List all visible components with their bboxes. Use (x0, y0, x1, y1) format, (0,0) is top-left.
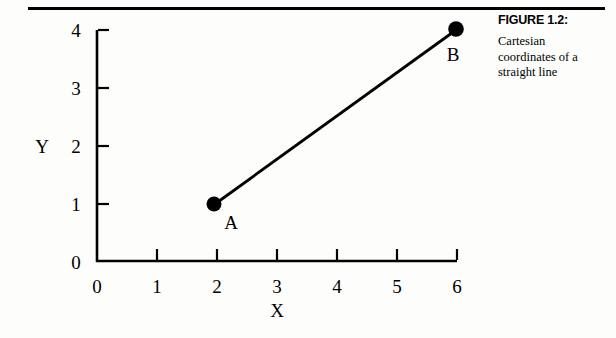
x-tick-label-6: 6 (445, 277, 469, 296)
figure-caption-title: FIGURE 1.2: (498, 13, 604, 28)
x-tick-label-3: 3 (265, 277, 289, 296)
x-tick-label-2: 2 (205, 277, 229, 296)
x-tick-label-0: 0 (85, 277, 109, 296)
figure-caption: FIGURE 1.2: Cartesian coordinates of a s… (498, 13, 604, 81)
point-label-b: B (443, 45, 463, 64)
data-point-b (448, 21, 464, 37)
y-tick-label-3: 3 (64, 79, 88, 98)
data-point-a (207, 197, 222, 212)
figure-caption-body: Cartesian coordinates of a straight line (498, 34, 604, 81)
figure-page: 4 3 2 1 0 0 1 2 3 4 5 6 Y X A B FIGURE 1… (0, 0, 616, 338)
x-tick-label-1: 1 (145, 277, 169, 296)
point-label-a: A (221, 213, 241, 232)
x-axis-label: X (265, 301, 289, 320)
x-tick-label-5: 5 (385, 277, 409, 296)
x-tick-label-4: 4 (325, 277, 349, 296)
y-tick-label-2: 2 (64, 137, 88, 156)
y-tick-label-0: 0 (64, 253, 88, 272)
y-tick-label-4: 4 (64, 21, 88, 40)
data-line-segment (215, 30, 456, 204)
y-axis-label: Y (30, 137, 54, 156)
y-tick-label-1: 1 (64, 195, 88, 214)
